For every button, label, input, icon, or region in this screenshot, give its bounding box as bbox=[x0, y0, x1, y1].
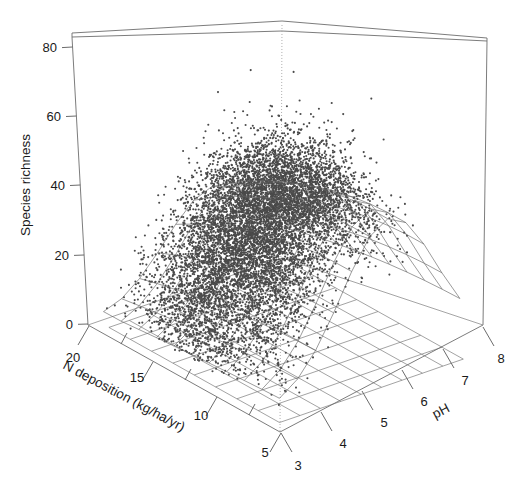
y-tick-5: 5 bbox=[380, 415, 387, 430]
z-tick-0: 0 bbox=[66, 317, 73, 332]
z-axis-title: Species richness bbox=[18, 134, 33, 236]
z-tick-80: 80 bbox=[43, 40, 57, 55]
plot-canvas: 80 60 40 20 0 Species richness 20 15 10 … bbox=[0, 0, 510, 496]
figure-3d-scatter: 80 60 40 20 0 Species richness 20 15 10 … bbox=[0, 0, 510, 496]
y-tick-3: 3 bbox=[294, 458, 301, 473]
y-tick-7: 7 bbox=[461, 373, 468, 388]
z-tick-20: 20 bbox=[55, 248, 69, 263]
x-axis-title: N deposition (kg/ha/yr) bbox=[61, 358, 188, 435]
z-tick-40: 40 bbox=[51, 178, 65, 193]
x-axis-tick-labels: 20 15 10 5 bbox=[66, 350, 269, 460]
x-tick-15: 15 bbox=[130, 370, 144, 385]
z-axis-tick-labels: 80 60 40 20 0 bbox=[43, 40, 73, 332]
x-tick-10: 10 bbox=[194, 408, 208, 423]
x-tick-5: 5 bbox=[261, 445, 268, 460]
y-tick-6: 6 bbox=[420, 394, 427, 409]
y-axis-ticks bbox=[281, 327, 494, 452]
y-tick-4: 4 bbox=[339, 436, 346, 451]
y-axis-title: pH bbox=[430, 400, 452, 421]
z-tick-60: 60 bbox=[47, 109, 61, 124]
scatter-points bbox=[106, 69, 414, 406]
y-tick-8: 8 bbox=[497, 351, 504, 366]
